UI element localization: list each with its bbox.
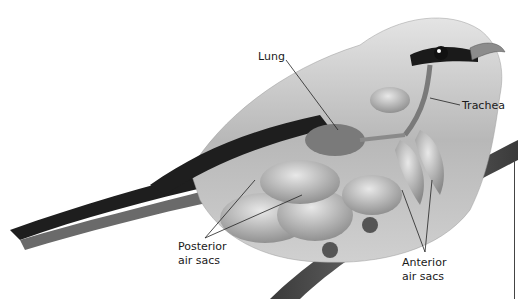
anterior-air-sacs-label-line2: air sacs — [402, 270, 446, 284]
posterior-air-sacs-label-line2: air sacs — [178, 254, 227, 268]
tail — [10, 170, 220, 250]
anterior-air-sacs-label: Anterior air sacs — [402, 256, 446, 284]
trachea-label: Trachea — [462, 99, 505, 113]
posterior-air-sacs-label: Posterior air sacs — [178, 240, 227, 268]
lung-label: Lung — [258, 50, 285, 64]
interclavicular-air-sac — [370, 87, 410, 113]
anterior-air-sacs-label-line1: Anterior — [402, 256, 446, 270]
page-edge-line — [514, 160, 515, 299]
posterior-air-sacs-label-line1: Posterior — [178, 240, 227, 254]
bird-illustration — [0, 0, 518, 299]
bird-respiratory-diagram: Lung Trachea Posterior air sacs Anterior… — [0, 0, 518, 299]
abdominal-air-sac — [260, 160, 340, 204]
lung — [305, 124, 365, 156]
